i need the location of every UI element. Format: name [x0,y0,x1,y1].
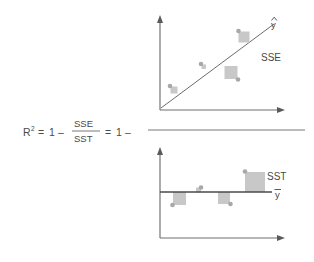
formula-equals-second: = [105,126,111,138]
sst-deviation-square [245,172,265,192]
formula-one-second: 1 [116,126,122,138]
sse-panel: y SSE [157,15,285,113]
formula-one-first: 1 [49,126,55,138]
formula-equals-first: = [38,126,44,138]
sse-residual-square [225,66,238,79]
sst-y-axis-arrow-icon [157,147,163,155]
sse-data-point [236,29,241,34]
sst-deviation-square [173,192,186,205]
y-bar-label: y [275,189,282,200]
sse-data-point [199,62,204,67]
formula-group: R 2 = 1 – SSE SST = 1 – [23,118,131,144]
sse-y-axis-arrow-icon [157,15,163,23]
sse-data-point [168,84,173,89]
small-fraction: SSE SST [72,118,100,144]
formula-minus-second: – [125,126,131,138]
fraction-numerator-sse: SSE [74,118,93,129]
sse-x-axis-arrow-icon [277,107,285,113]
formula-r-symbol: R [23,126,31,138]
sst-data-point [170,203,175,208]
sst-x-axis-arrow-icon [277,235,285,241]
sse-label: SSE [261,52,281,63]
sst-label: SST [267,171,286,182]
sst-data-point [243,169,248,174]
y-hat-label: y [271,17,277,30]
fraction-denominator-sst: SST [74,133,93,144]
figure-canvas: R 2 = 1 – SSE SST = 1 – [0,0,314,262]
y-bar-base-letter: y [275,189,280,200]
regression-fit-line [161,24,274,108]
sse-residual-square [239,32,250,43]
formula-r-exponent: 2 [31,125,35,132]
sst-deviation-square [218,192,230,204]
sst-data-point [199,185,204,190]
sse-data-point [236,77,241,82]
sst-panel: y SST [157,147,286,241]
sst-data-point [228,202,233,207]
r-squared-diagram: R 2 = 1 – SSE SST = 1 – [0,0,314,262]
formula-minus-first: – [58,126,64,138]
